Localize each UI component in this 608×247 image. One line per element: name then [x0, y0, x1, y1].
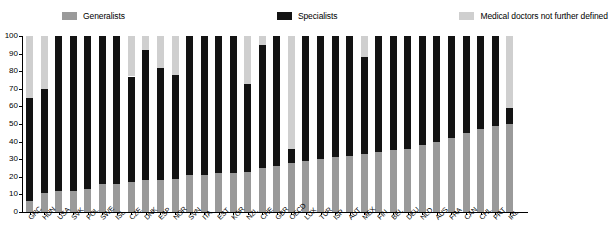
bar-segment-specialists: [404, 36, 411, 149]
bar-segment-specialists: [84, 36, 91, 189]
bar-nor: [172, 36, 179, 212]
bar-segment-not_further_defined: [142, 36, 149, 50]
bar-aut: [346, 36, 353, 212]
bar-segment-generalists: [477, 129, 484, 212]
legend-label-generalists: Generalists: [83, 11, 125, 21]
bar-nld: [419, 36, 426, 212]
bar-segment-generalists: [172, 179, 179, 212]
bar-grc: [26, 36, 33, 212]
bar-segment-not_further_defined: [506, 36, 513, 108]
bar-segment-generalists: [419, 145, 426, 212]
bar-ita: [201, 36, 208, 212]
bar-segment-specialists: [70, 36, 77, 191]
bar-segment-specialists: [433, 36, 440, 142]
bar-segment-specialists: [26, 98, 33, 202]
y-tick-label-70: 70: [2, 85, 18, 93]
y-tick-label-80: 80: [2, 67, 18, 75]
bar-lux: [302, 36, 309, 212]
bar-segment-specialists: [477, 36, 484, 129]
bar-segment-generalists: [317, 159, 324, 212]
bar-isl: [113, 36, 120, 212]
chart-legend: Generalists Specialists Medical doctors …: [0, 7, 551, 25]
bar-segment-specialists: [346, 36, 353, 156]
y-tick-label-50: 50: [2, 120, 18, 128]
legend-swatch-generalists: [62, 12, 77, 20]
bar-svn: [186, 36, 193, 212]
bar-segment-not_further_defined: [244, 36, 251, 84]
bar-hun: [41, 36, 48, 212]
bar-segment-specialists: [41, 89, 48, 193]
bar-kor: [230, 36, 237, 212]
bar-segment-specialists: [99, 36, 106, 184]
y-tick-label-90: 90: [2, 50, 18, 58]
bar-segment-generalists: [142, 180, 149, 212]
bar-segment-specialists: [157, 68, 164, 181]
bar-segment-specialists: [230, 36, 237, 173]
bar-segment-specialists: [142, 50, 149, 180]
bar-segment-specialists: [273, 36, 280, 166]
bar-pol: [84, 36, 91, 212]
bar-segment-generalists: [346, 156, 353, 212]
y-tick-label-10: 10: [2, 190, 18, 198]
bar-segment-generalists: [506, 124, 513, 212]
bar-segment-specialists: [172, 75, 179, 179]
bar-oecd: [288, 36, 295, 212]
bar-segment-specialists: [55, 36, 62, 191]
bar-segment-generalists: [201, 175, 208, 212]
bar-prt: [492, 36, 499, 212]
bar-segment-specialists: [302, 36, 309, 161]
bar-segment-generalists: [492, 126, 499, 212]
legend-item-not-further-defined: Medical doctors not further defined: [459, 11, 607, 21]
bar-segment-generalists: [375, 152, 382, 212]
bar-segment-specialists: [361, 57, 368, 154]
bar-chl: [477, 36, 484, 212]
y-tick-label-100: 100: [2, 32, 18, 40]
bar-segment-specialists: [390, 36, 397, 150]
bar-segment-specialists: [244, 84, 251, 172]
plot-area: [22, 36, 527, 212]
bar-segment-generalists: [448, 138, 455, 212]
y-tick-0: [19, 212, 22, 213]
bar-segment-not_further_defined: [41, 36, 48, 89]
bar-gbr: [273, 36, 280, 212]
bar-segment-not_further_defined: [288, 36, 295, 149]
y-axis-labels: 0102030405060708090100: [0, 32, 18, 216]
bar-segment-specialists: [186, 36, 193, 175]
bar-segment-generalists: [230, 173, 237, 212]
y-tick-label-40: 40: [2, 138, 18, 146]
bar-segment-specialists: [448, 36, 455, 138]
bar-svk: [70, 36, 77, 212]
bar-segment-specialists: [463, 36, 470, 133]
bar-che: [259, 36, 266, 212]
bar-fin: [375, 36, 382, 212]
bar-segment-generalists: [288, 163, 295, 212]
bar-mex: [361, 36, 368, 212]
bar-segment-specialists: [492, 36, 499, 126]
bar-segment-specialists: [332, 36, 339, 157]
legend-swatch-not-further-defined: [459, 12, 474, 20]
legend-swatch-specialists: [277, 12, 292, 20]
bar-segment-generalists: [390, 150, 397, 212]
bar-segment-generalists: [273, 166, 280, 212]
bar-segment-specialists: [201, 36, 208, 175]
bar-segment-generalists: [332, 157, 339, 212]
legend-item-specialists: Specialists: [277, 11, 338, 21]
bar-isr: [332, 36, 339, 212]
bar-series-group: [22, 36, 527, 212]
bar-segment-generalists: [463, 133, 470, 212]
y-tick-label-30: 30: [2, 155, 18, 163]
bar-segment-generalists: [186, 175, 193, 212]
bar-segment-not_further_defined: [361, 36, 368, 57]
bar-tur: [317, 36, 324, 212]
bar-bel: [390, 36, 397, 212]
bar-segment-not_further_defined: [128, 36, 135, 76]
bar-segment-generalists: [259, 168, 266, 212]
y-tick-label-20: 20: [2, 173, 18, 181]
y-tick-label-60: 60: [2, 102, 18, 110]
bar-segment-specialists: [128, 77, 135, 183]
bar-segment-specialists: [259, 45, 266, 168]
bar-dnk: [142, 36, 149, 212]
bar-segment-generalists: [244, 172, 251, 212]
bar-est: [215, 36, 222, 212]
